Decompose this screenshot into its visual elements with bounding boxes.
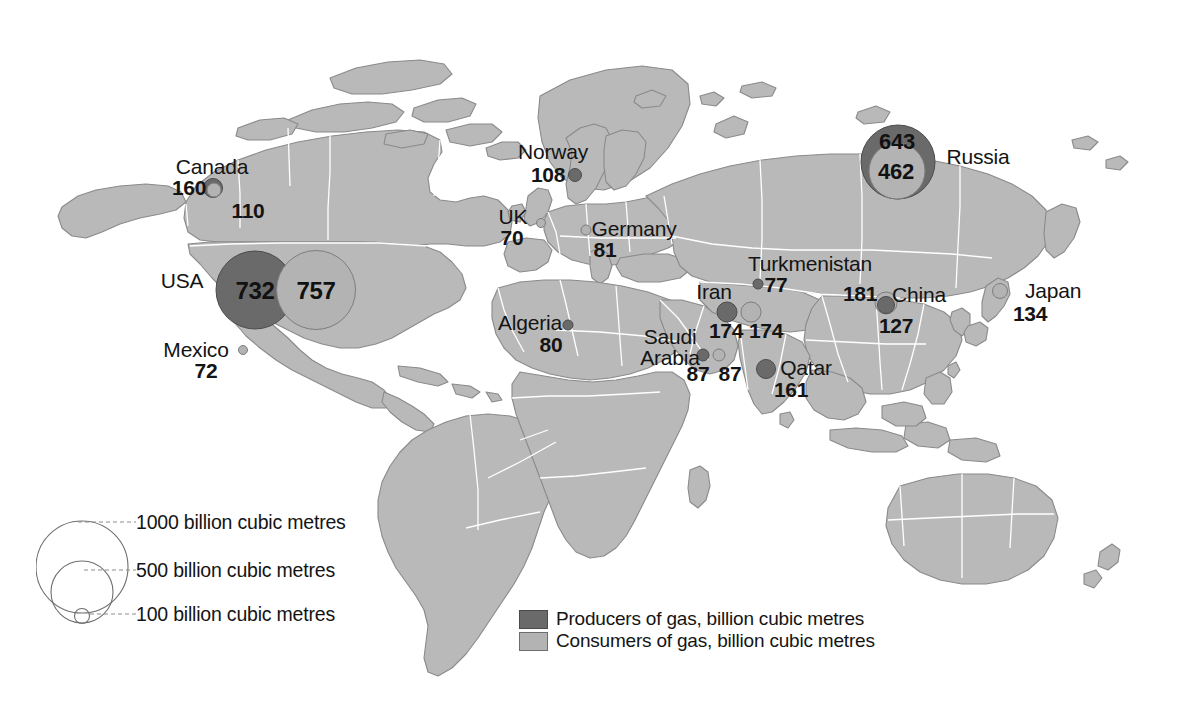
producers-legend-label: Producers of gas, billion cubic metres (556, 608, 864, 630)
bubble-canada-consumer (207, 183, 222, 198)
label-canada: Canada (176, 155, 248, 179)
label-norway: Norway (518, 140, 588, 164)
value-mexico-consumer: 72 (195, 359, 218, 383)
value-norway-producer: 108 (531, 163, 565, 187)
value-china-producer: 127 (879, 314, 913, 338)
label-russia: Russia (947, 145, 1010, 169)
producers-swatch (519, 610, 548, 629)
value-usa-consumer: 757 (296, 277, 335, 305)
bubble-turkmenistan-producer (753, 279, 764, 290)
label-japan: Japan (1025, 279, 1081, 303)
bubble-uk-consumer (536, 218, 546, 228)
value-usa-producer: 732 (235, 277, 274, 305)
size-legend-label-1000: 1000 billion cubic metres (136, 511, 346, 534)
bubble-algeria-producer (563, 320, 574, 331)
value-uk-consumer: 70 (501, 226, 524, 250)
size-legend: 1000 billion cubic metres 500 billion cu… (36, 492, 336, 644)
value-turkmenistan-producer: 77 (765, 273, 788, 297)
label-algeria: Algeria (498, 311, 562, 335)
label-qatar: Qatar (780, 356, 832, 380)
gas-bubble-world-map: 160 110 Canada 732 757 USA Mexico 72 Nor… (0, 0, 1195, 712)
consumers-legend-label: Consumers of gas, billion cubic metres (556, 630, 875, 652)
bubble-japan-consumer (992, 283, 1008, 299)
label-usa: USA (161, 269, 204, 293)
size-legend-label-500: 500 billion cubic metres (136, 559, 335, 582)
value-saudi-consumer: 87 (719, 362, 742, 386)
size-legend-circle-100 (75, 609, 90, 624)
value-saudi-producer: 87 (687, 362, 710, 386)
value-japan-consumer: 134 (1013, 302, 1047, 326)
bubble-saudi-consumer (713, 349, 726, 362)
colour-legend-row-consumers: Consumers of gas, billion cubic metres (519, 630, 875, 652)
consumers-swatch (519, 632, 548, 651)
value-qatar-producer: 161 (774, 378, 808, 402)
value-russia-consumer: 462 (878, 159, 914, 185)
colour-legend-row-producers: Producers of gas, billion cubic metres (519, 608, 875, 630)
colour-legend: Producers of gas, billion cubic metres C… (519, 608, 875, 652)
value-china-consumer: 181 (843, 282, 877, 306)
bubble-mexico-consumer (238, 345, 248, 355)
bubble-germany-consumer (581, 225, 592, 236)
value-germany-consumer: 81 (594, 238, 617, 262)
value-algeria-producer: 80 (540, 333, 563, 357)
label-china: China (892, 283, 946, 307)
value-iran-consumer: 174 (749, 319, 783, 343)
size-legend-circle-1000 (36, 521, 128, 613)
value-russia-producer: 643 (879, 129, 915, 155)
bubble-norway-producer (568, 168, 582, 182)
bubble-qatar-producer (756, 359, 776, 379)
label-iran: Iran (696, 280, 731, 304)
size-legend-circle-500 (51, 561, 113, 623)
value-canada-consumer: 110 (232, 199, 265, 223)
value-iran-producer: 174 (709, 319, 743, 343)
value-canada-producer: 160 (172, 176, 206, 200)
size-legend-label-100: 100 billion cubic metres (136, 603, 335, 626)
